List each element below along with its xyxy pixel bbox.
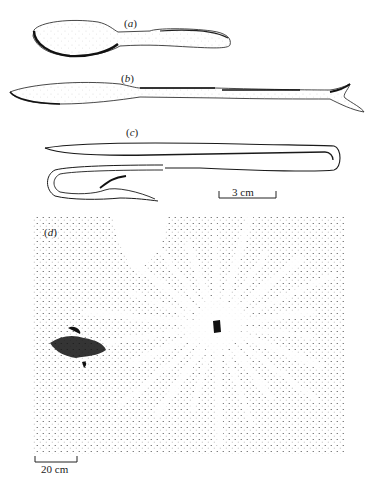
panel-label-a: (a)	[124, 17, 137, 30]
scale-label-20cm: 20 cm	[41, 463, 69, 475]
panel-label-b: (b)	[121, 72, 134, 85]
scale-bar-20cm: 20 cm	[35, 456, 77, 475]
central-feature	[213, 320, 221, 333]
ray	[214, 224, 217, 326]
artifact-c-bent-tool	[45, 143, 340, 201]
panel-label-c: (c)	[126, 126, 139, 139]
panel-d-plan: (d)	[33, 212, 345, 454]
figure: (a) (b) (c) 3 cm	[0, 0, 372, 493]
artifact-b-blade	[10, 82, 364, 112]
scale-label-3cm: 3 cm	[232, 186, 254, 198]
scale-bar-3cm: 3 cm	[219, 186, 276, 198]
panel-label-d: (d)	[44, 226, 57, 239]
ray	[217, 326, 220, 444]
